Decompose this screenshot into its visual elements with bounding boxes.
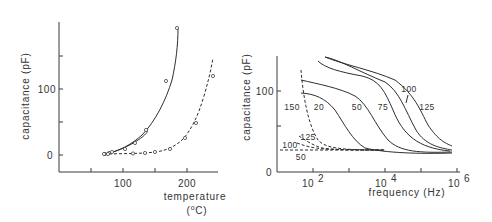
right-label-dashed-150: 150 bbox=[284, 102, 300, 112]
right-label-100-pointer bbox=[406, 95, 408, 103]
right-x-tick-1e2: 10 2 bbox=[302, 173, 324, 189]
left-y-axis-title: capacitance (pF) bbox=[20, 52, 31, 139]
right-x-tick-1e6: 10 6 bbox=[448, 173, 470, 189]
svg-text:10: 10 bbox=[302, 178, 314, 189]
svg-text:4: 4 bbox=[391, 173, 397, 184]
figure: 0 100 100 200 capacitance (pF) temperatu… bbox=[0, 0, 492, 222]
right-chart: 0 100 10 2 10 4 10 6 capacitance (pF) fr… bbox=[241, 53, 470, 198]
right-label-50: 50 bbox=[352, 102, 362, 112]
right-label-dashed-125: 125 bbox=[300, 132, 316, 142]
right-curve-50 bbox=[301, 80, 452, 152]
right-label-75: 75 bbox=[378, 102, 388, 112]
right-label-20: 20 bbox=[314, 102, 324, 112]
left-x-axis-title: temperature bbox=[164, 191, 227, 202]
right-label-dashed-100: 100 bbox=[282, 140, 298, 150]
right-y-tick-0: 0 bbox=[266, 167, 272, 178]
left-solid-curve bbox=[105, 28, 178, 154]
left-x-axis-unit: (oC) bbox=[187, 204, 208, 216]
right-x-axis-title: frequency (Hz) bbox=[369, 187, 446, 198]
left-chart: 0 100 100 200 capacitance (pF) temperatu… bbox=[20, 22, 226, 216]
svg-text:10: 10 bbox=[448, 178, 460, 189]
left-y-tick-100: 100 bbox=[38, 84, 56, 95]
left-x-tick-200: 200 bbox=[178, 178, 196, 189]
right-label-dashed-50: 50 bbox=[296, 152, 306, 162]
right-y-axis-title: capacitance (pF) bbox=[241, 53, 252, 140]
svg-text:6: 6 bbox=[464, 173, 470, 184]
left-x-tick-100: 100 bbox=[114, 178, 132, 189]
right-label-125: 125 bbox=[419, 102, 435, 112]
svg-text:2: 2 bbox=[318, 173, 324, 184]
left-dashed-curve bbox=[104, 58, 213, 154]
left-y-tick-0: 0 bbox=[47, 150, 53, 161]
right-label-100: 100 bbox=[401, 84, 417, 94]
right-y-tick-100: 100 bbox=[256, 86, 274, 97]
